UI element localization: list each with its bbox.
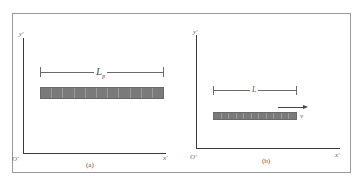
- caption-b: (b): [262, 158, 270, 165]
- caption-a: (a): [86, 162, 94, 169]
- rod-segment: [214, 113, 222, 119]
- rod-at-rest: [40, 87, 164, 99]
- length-subscript: p: [102, 73, 105, 79]
- origin-label-a: O': [12, 156, 19, 163]
- x-axis-label-b: x': [335, 152, 340, 159]
- rod-segment: [289, 113, 296, 119]
- rod-segment: [108, 88, 119, 98]
- length-symbol: L: [252, 85, 256, 94]
- y-axis-label-a: y': [19, 31, 24, 38]
- y-axis-a: [23, 38, 24, 154]
- arrowhead-icon: [303, 105, 308, 109]
- rod-segment: [237, 113, 245, 119]
- velocity-label: v: [300, 113, 303, 120]
- rod-segment: [282, 113, 290, 119]
- rod-segment: [119, 88, 130, 98]
- dimension-tick-right-b: [296, 86, 297, 95]
- rod-segment: [274, 113, 282, 119]
- dimension-tick-right-a: [163, 67, 164, 77]
- x-axis-label-a: x': [163, 155, 168, 162]
- rod-segment: [267, 113, 275, 119]
- rod-segment: [52, 88, 63, 98]
- rod-segment: [142, 88, 153, 98]
- length-label-contracted: L: [250, 86, 258, 94]
- length-label-proper: Lp: [94, 66, 107, 79]
- x-axis-b: [196, 148, 340, 149]
- x-axis-a: [23, 153, 166, 154]
- velocity-arrow: [278, 107, 304, 108]
- rod-segment: [41, 88, 52, 98]
- rod-segment: [86, 88, 97, 98]
- rod-segment: [97, 88, 108, 98]
- rod-segment: [252, 113, 260, 119]
- rod-segment: [153, 88, 163, 98]
- rod-moving: [213, 112, 297, 120]
- rod-segment: [259, 113, 267, 119]
- rod-segment: [63, 88, 74, 98]
- rod-segment: [222, 113, 230, 119]
- rod-segment: [229, 113, 237, 119]
- rod-segment: [244, 113, 252, 119]
- rod-segment: [75, 88, 86, 98]
- origin-label-b: O': [190, 154, 197, 161]
- y-axis-b: [196, 35, 197, 149]
- rod-segment: [131, 88, 142, 98]
